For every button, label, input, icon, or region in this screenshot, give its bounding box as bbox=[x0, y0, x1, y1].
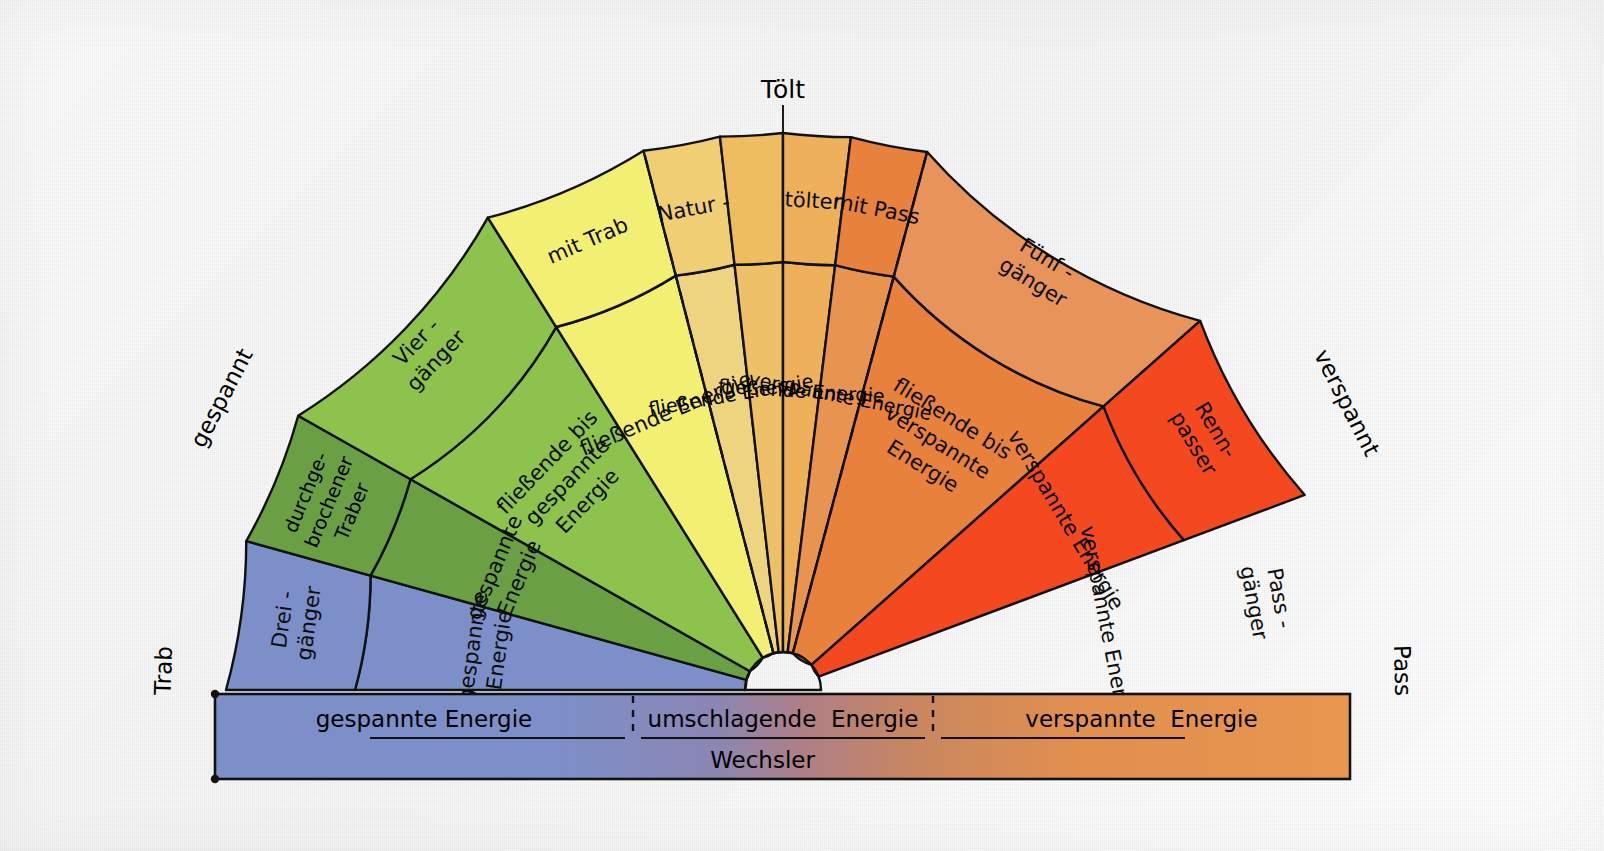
bar-segment-label-1: umschlagende Energie bbox=[648, 706, 919, 732]
outer-label-pass-gaenger: Pass -gänger bbox=[1235, 559, 1298, 642]
svg-text:Trab: Trab bbox=[150, 646, 178, 697]
label-wechsler: Wechsler bbox=[710, 747, 815, 773]
svg-text:Pass: Pass bbox=[1389, 645, 1417, 697]
svg-text:verspannt: verspannt bbox=[1309, 345, 1385, 460]
diagram-page: Drei -gängerdurchge-brochenerTraberVier … bbox=[0, 0, 1604, 851]
bar-segment-label-0: gespannte Energie bbox=[316, 706, 533, 732]
bar-segment-label-2: verspannte Energie bbox=[1025, 706, 1257, 732]
label-gespannt: gespannt bbox=[185, 344, 258, 451]
label-pass: Pass bbox=[1389, 645, 1417, 697]
label-trab: Trab bbox=[150, 646, 178, 697]
label-verspannt: verspannt bbox=[1309, 345, 1385, 460]
baseline-dot-1 bbox=[211, 775, 219, 783]
svg-text:gespannt: gespannt bbox=[185, 344, 258, 451]
gait-fan-diagram: Drei -gängerdurchge-brochenerTraberVier … bbox=[0, 0, 1604, 851]
label-toelt: Tölt bbox=[760, 75, 805, 104]
baseline-dot-0 bbox=[211, 690, 219, 698]
